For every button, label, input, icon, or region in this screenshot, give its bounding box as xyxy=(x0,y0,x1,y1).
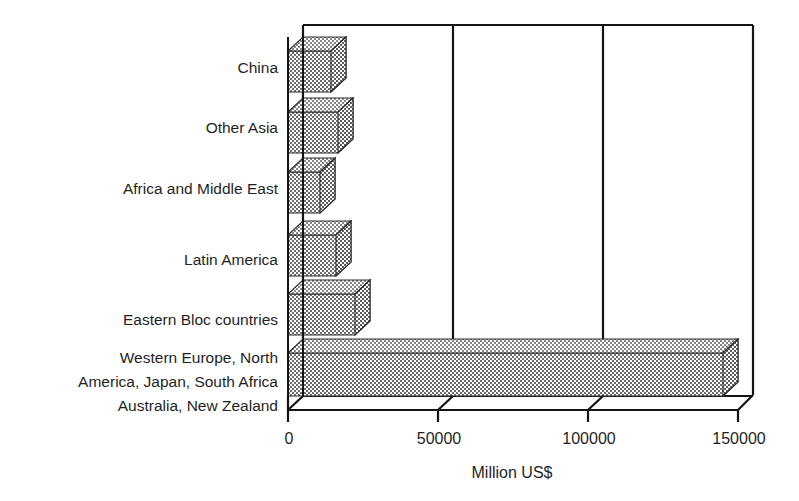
bar-chart-figure: China Other Asia Africa and Middle East … xyxy=(0,0,799,501)
category-label-western-europe-line3: Australia, New Zealand xyxy=(118,397,278,414)
bar-western-europe xyxy=(288,339,738,396)
xtick-label-100000: 100000 xyxy=(562,430,615,447)
xtick-label-50000: 50000 xyxy=(417,430,462,447)
bar-latin-america xyxy=(288,221,351,276)
category-label-china: China xyxy=(238,59,279,76)
category-label-latin-america: Latin America xyxy=(184,251,278,268)
category-label-eastern-bloc-countries: Eastern Bloc countries xyxy=(123,311,278,328)
category-label-africa-and-middle-east: Africa and Middle East xyxy=(123,180,279,197)
chart-background xyxy=(0,0,799,501)
bar-china xyxy=(288,37,346,92)
xtick-label-150000: 150000 xyxy=(712,430,765,447)
bar-africa-middle-east xyxy=(288,158,335,213)
bar-top-face xyxy=(288,339,738,353)
chart-svg: China Other Asia Africa and Middle East … xyxy=(0,0,799,501)
x-axis-title: Million US$ xyxy=(472,464,553,481)
bar-other-asia xyxy=(288,98,353,153)
category-label-other-asia: Other Asia xyxy=(206,119,279,136)
category-label-western-europe-line1: Western Europe, North xyxy=(120,349,278,366)
category-label-western-europe-line2: America, Japan, South Africa xyxy=(78,373,278,390)
bar-eastern-bloc xyxy=(288,280,370,335)
xtick-label-0: 0 xyxy=(285,430,294,447)
